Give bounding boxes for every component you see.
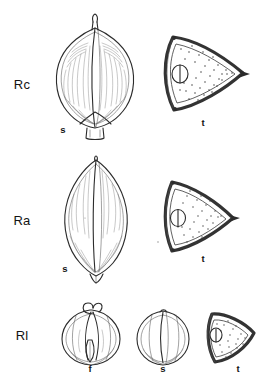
sublabel-rc-seed: s (60, 124, 65, 135)
sublabel-rl-seed: s (160, 363, 165, 374)
illustration-plate: Rc (0, 0, 276, 392)
row-label-rc: Rc (14, 77, 31, 92)
sublabel-ra-seed: s (62, 263, 67, 274)
row-label-rl: Rl (16, 328, 29, 343)
row-label-ra: Ra (13, 213, 31, 228)
